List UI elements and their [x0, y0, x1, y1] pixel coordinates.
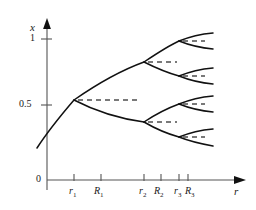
x-axis-label: r	[234, 186, 238, 197]
x-axis-arrowhead	[234, 176, 246, 184]
y-tick-label-0: 0	[36, 174, 41, 184]
x-tick-label-r3: r3	[174, 186, 181, 199]
branch-period4-c	[144, 104, 179, 122]
branch-period8-a2	[179, 41, 213, 49]
branch-period4-a	[144, 41, 179, 62]
y-tick-label-0-5: 0.5	[19, 99, 32, 109]
branch-period1	[37, 100, 74, 148]
x-tick-label-R1: R1	[94, 186, 104, 199]
branch-period4-d	[144, 122, 179, 137]
y-axis-arrowhead	[43, 18, 51, 29]
y-tick-label-1: 1	[30, 33, 35, 43]
branch-period8-c2	[179, 104, 213, 112]
x-tick-label-r1: r1	[69, 186, 76, 199]
x-tick-label-R3: R3	[185, 186, 195, 199]
x-tick-label-r2: r2	[139, 186, 146, 199]
branch-period8-c1	[179, 96, 213, 104]
branch-period8-d2	[179, 137, 213, 146]
branch-period8-d1	[179, 129, 213, 137]
x-tick-label-R2: R2	[154, 186, 164, 199]
branch-period2-upper	[74, 62, 144, 100]
dashed-guides	[78, 41, 205, 137]
branch-period4-b	[144, 62, 179, 76]
branch-period2-lower	[74, 100, 144, 122]
branch-period8-a1	[179, 33, 213, 41]
bifurcation-branches	[37, 33, 213, 148]
branch-period8-b2	[179, 76, 213, 84]
bifurcation-figure: x r 1 0.5 0 r1 R1 r2 R2 r3 R3	[0, 0, 256, 210]
branch-period8-b1	[179, 68, 213, 76]
axes-group	[47, 26, 238, 190]
